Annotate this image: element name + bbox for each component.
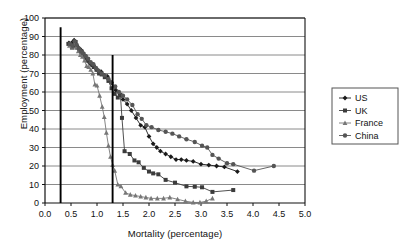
x-tick-label: 1.5	[117, 209, 130, 219]
data-point-square	[200, 185, 204, 189]
data-point-circle	[125, 97, 129, 101]
x-tick-label: 0.5	[65, 209, 78, 219]
data-point-square	[142, 166, 146, 170]
data-point-circle	[177, 134, 181, 138]
data-point-circle	[193, 140, 197, 144]
data-point-circle	[121, 94, 125, 98]
x-tick-label: 2.5	[169, 209, 182, 219]
x-tick-label: 0.0	[39, 209, 52, 219]
data-point-circle	[170, 131, 174, 135]
x-tick-label: 4.5	[273, 209, 286, 219]
data-point-circle	[103, 73, 107, 77]
plot-svg: 01020304050607080901000.00.51.01.52.02.5…	[0, 0, 403, 248]
data-point-circle	[200, 143, 204, 147]
y-tick-label: 90	[29, 32, 39, 42]
data-point-circle	[135, 112, 139, 116]
legend-marker-square	[343, 109, 347, 113]
data-point-square	[132, 158, 136, 162]
data-point-square	[231, 188, 235, 192]
legend-label: UK	[355, 106, 368, 116]
y-tick-label: 0	[34, 198, 39, 208]
data-point-circle	[216, 156, 220, 160]
x-tick-label: 5.0	[299, 209, 312, 219]
data-point-circle	[156, 128, 160, 132]
data-point-circle	[106, 77, 110, 81]
data-point-square	[128, 152, 132, 156]
legend-marker-circle	[343, 133, 347, 137]
data-point-circle	[272, 164, 276, 168]
legend-label: China	[355, 131, 379, 141]
y-tick-label: 40	[29, 124, 39, 134]
data-point-circle	[75, 43, 79, 47]
data-point-square	[156, 172, 160, 176]
x-tick-label: 2.0	[143, 209, 156, 219]
data-point-circle	[205, 145, 209, 149]
data-point-circle	[72, 39, 76, 43]
data-point-circle	[225, 161, 229, 165]
y-tick-label: 10	[29, 180, 39, 190]
x-tick-label: 1.0	[91, 209, 104, 219]
y-tick-label: 70	[29, 69, 39, 79]
data-point-circle	[91, 62, 95, 66]
data-point-circle	[117, 90, 121, 94]
x-tick-label: 4.0	[247, 209, 260, 219]
data-point-square	[137, 160, 141, 164]
y-tick-label: 50	[29, 106, 39, 116]
data-point-circle	[140, 117, 144, 121]
employment-mortality-chart: Employment (percentage) Mortality (perce…	[0, 0, 403, 248]
data-point-square	[151, 171, 155, 175]
y-tick-label: 60	[29, 87, 39, 97]
data-point-circle	[210, 153, 214, 157]
data-point-circle	[149, 125, 153, 129]
data-point-square	[164, 178, 168, 182]
data-point-circle	[252, 168, 256, 172]
data-point-square	[123, 149, 127, 153]
y-tick-label: 80	[29, 50, 39, 60]
data-point-square	[210, 190, 214, 194]
legend-label: France	[355, 118, 383, 128]
data-point-circle	[144, 123, 148, 127]
data-point-square	[184, 184, 188, 188]
data-point-square	[173, 181, 177, 185]
x-tick-label: 3.0	[195, 209, 208, 219]
data-point-square	[193, 185, 197, 189]
y-tick-label: 20	[29, 161, 39, 171]
data-point-square	[147, 170, 151, 174]
y-tick-label: 100	[24, 13, 39, 23]
data-point-circle	[130, 103, 134, 107]
data-point-circle	[113, 84, 117, 88]
data-point-circle	[231, 162, 235, 166]
legend: USUKFranceChina	[332, 88, 398, 144]
legend-label: US	[355, 93, 368, 103]
data-point-circle	[163, 130, 167, 134]
data-point-circle	[184, 137, 188, 141]
data-point-circle	[86, 57, 90, 61]
data-point-circle	[70, 44, 74, 48]
x-tick-label: 3.5	[221, 209, 234, 219]
y-tick-label: 30	[29, 143, 39, 153]
data-point-square	[120, 116, 124, 120]
